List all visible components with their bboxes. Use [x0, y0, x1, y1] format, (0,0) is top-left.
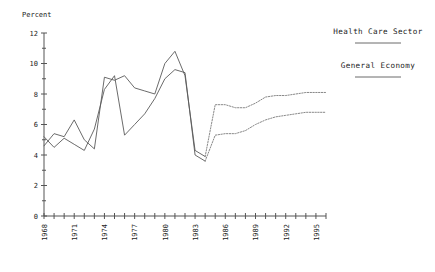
legend-label-general-economy: General Economy: [341, 61, 416, 70]
legend-label-health-care-sector: Health Care Sector: [333, 27, 423, 36]
x-tick-label: 1983: [192, 224, 200, 241]
series-line-general-economy-projected: [205, 112, 326, 161]
chart-container: Percent 024681012 1968197119741977198019…: [0, 0, 435, 272]
x-tick-label: 1968: [41, 224, 49, 241]
y-tick-label: 2: [34, 182, 38, 190]
legend: Health Care Sector General Economy: [333, 27, 423, 77]
series-line-general-economy-actual: [44, 70, 205, 162]
y-axis-title: Percent: [22, 11, 52, 19]
x-tick-label: 1977: [131, 224, 139, 241]
y-tick-label: 6: [34, 121, 38, 129]
x-tick-label: 1989: [252, 224, 260, 241]
series-layer: [44, 51, 326, 161]
x-tick-label: 1992: [283, 224, 291, 241]
series-line-health-care-sector-projected: [205, 92, 326, 156]
y-tick-label: 8: [34, 91, 38, 99]
y-tick-label: 4: [34, 152, 38, 160]
x-axis-ticks: 1968197119741977198019831986198919921995: [41, 213, 326, 241]
x-tick-label: 1986: [222, 224, 230, 241]
y-tick-label: 0: [34, 213, 38, 221]
x-tick-label: 1974: [101, 224, 109, 241]
y-tick-label: 12: [30, 30, 38, 38]
x-tick-label: 1971: [71, 224, 79, 241]
x-tick-label: 1980: [162, 224, 170, 241]
line-chart: Percent 024681012 1968197119741977198019…: [0, 0, 435, 272]
x-tick-label: 1995: [313, 224, 321, 241]
y-tick-label: 10: [30, 60, 38, 68]
